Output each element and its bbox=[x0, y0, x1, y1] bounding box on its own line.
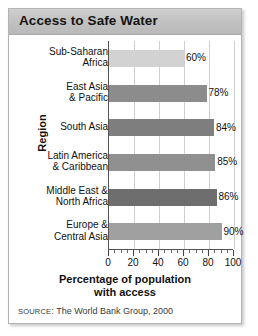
source-note: SOURCE: The World Bank Group, 2000 bbox=[18, 306, 173, 316]
y-axis-tick-labels: Sub-SaharanAfricaEast Asia& PacificSouth… bbox=[25, 41, 108, 249]
bar-value-label: 60% bbox=[186, 52, 206, 63]
x-axis-minor-tick bbox=[121, 250, 122, 253]
x-axis-title: Percentage of population with access bbox=[17, 273, 233, 298]
x-axis-minor-tick bbox=[164, 250, 165, 253]
y-axis-tick-label-line: Central Asia bbox=[25, 231, 108, 243]
bar bbox=[109, 223, 222, 240]
y-axis-tick-label-line: Middle East & bbox=[25, 185, 108, 197]
x-axis-minor-tick bbox=[127, 250, 128, 253]
x-axis-tick-label: 80 bbox=[196, 257, 220, 268]
x-axis-minor-tick bbox=[227, 250, 228, 253]
gridline bbox=[159, 41, 160, 249]
x-axis-minor-tick bbox=[202, 250, 203, 253]
x-axis-minor-tick bbox=[221, 250, 222, 253]
x-axis-major-tick bbox=[133, 250, 134, 256]
x-axis-major-tick bbox=[208, 250, 209, 256]
y-axis-tick-label: East Asia& Pacific bbox=[25, 81, 108, 104]
bar-value-label: 90% bbox=[224, 226, 244, 237]
gridline bbox=[184, 41, 185, 249]
y-axis-tick-label-line: & Pacific bbox=[25, 92, 108, 104]
y-axis-tick-label: Sub-SaharanAfrica bbox=[25, 46, 108, 69]
x-axis-minor-tick bbox=[114, 250, 115, 253]
bar bbox=[109, 154, 215, 171]
x-axis-minor-tick bbox=[171, 250, 172, 253]
x-axis-tick-label: 20 bbox=[121, 257, 145, 268]
x-axis-major-tick bbox=[108, 250, 109, 256]
bar-value-label: 86% bbox=[219, 191, 239, 202]
x-axis-major-tick bbox=[183, 250, 184, 256]
x-axis-title-line1: Percentage of population bbox=[59, 273, 191, 285]
x-axis-tick-label: 40 bbox=[146, 257, 170, 268]
y-axis-tick-label-line: Sub-Saharan bbox=[25, 46, 108, 58]
plot-frame: Region Sub-SaharanAfricaEast Asia& Pacif… bbox=[17, 41, 233, 273]
x-axis bbox=[108, 249, 233, 257]
source-prefix: SOURCE bbox=[18, 307, 51, 316]
y-axis-tick-label-line: North Africa bbox=[25, 196, 108, 208]
y-axis-tick-label: South Asia bbox=[25, 121, 108, 133]
x-axis-tick-label: 60 bbox=[171, 257, 195, 268]
x-axis-minor-tick bbox=[214, 250, 215, 253]
source-text: The World Bank Group, 2000 bbox=[56, 306, 173, 316]
x-axis-minor-tick bbox=[152, 250, 153, 253]
x-axis-minor-tick bbox=[196, 250, 197, 253]
x-axis-title-line2: with access bbox=[94, 286, 156, 298]
gridline bbox=[134, 41, 135, 249]
y-axis-tick-label-line: Europe & bbox=[25, 219, 108, 231]
y-axis-tick-label: Middle East &North Africa bbox=[25, 185, 108, 208]
x-axis-minor-tick bbox=[177, 250, 178, 253]
plot-area bbox=[108, 41, 234, 249]
y-axis-tick-label-line: & Caribbean bbox=[25, 161, 108, 173]
y-axis-tick-label-line: Latin America bbox=[25, 150, 108, 162]
gridline bbox=[234, 41, 235, 249]
title-band: Access to Safe Water bbox=[9, 9, 241, 35]
chart-figure: Access to Safe Water Region Sub-SaharanA… bbox=[8, 8, 242, 324]
x-axis-tick-label: 0 bbox=[96, 257, 120, 268]
x-axis-minor-tick bbox=[139, 250, 140, 253]
y-axis-tick-label: Europe &Central Asia bbox=[25, 219, 108, 242]
bar bbox=[109, 85, 207, 102]
y-axis-tick-label-line: Africa bbox=[25, 57, 108, 69]
y-axis-tick-label-line: South Asia bbox=[25, 121, 108, 133]
x-axis-tick-label: 100 bbox=[221, 257, 245, 268]
gridline bbox=[209, 41, 210, 249]
y-axis-tick-label-line: East Asia bbox=[25, 81, 108, 93]
x-axis-minor-tick bbox=[146, 250, 147, 253]
x-axis-minor-tick bbox=[189, 250, 190, 253]
bar-value-label: 85% bbox=[217, 156, 237, 167]
x-axis-major-tick bbox=[158, 250, 159, 256]
bar bbox=[109, 119, 214, 136]
x-axis-major-tick bbox=[233, 250, 234, 256]
bar bbox=[109, 189, 217, 206]
bar-value-label: 78% bbox=[209, 87, 229, 98]
chart-title: Access to Safe Water bbox=[19, 13, 158, 28]
bar-value-label: 84% bbox=[216, 122, 236, 133]
bar bbox=[109, 50, 184, 67]
y-axis-tick-label: Latin America& Caribbean bbox=[25, 150, 108, 173]
